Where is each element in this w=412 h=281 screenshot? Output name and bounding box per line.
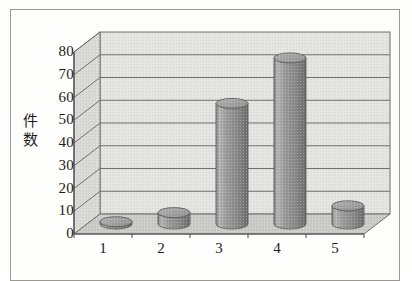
x-tick-label-4: 4: [262, 241, 292, 256]
y-axis-title-char-2: 数: [20, 131, 40, 150]
y-axis-title-char-1: 件: [20, 112, 40, 131]
x-tick-label-1: 1: [88, 241, 118, 256]
x-tick-label-2: 2: [146, 241, 176, 256]
y-axis-title: 件 数: [20, 112, 40, 150]
x-tick-label-3: 3: [204, 241, 234, 256]
x-tick-label-5: 5: [320, 241, 350, 256]
